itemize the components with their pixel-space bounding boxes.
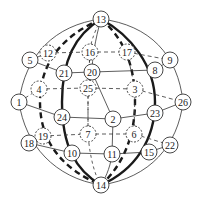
node-26: 26 <box>175 94 191 110</box>
node-label: 7 <box>86 129 91 140</box>
node-19: 19 <box>35 128 51 144</box>
node-21: 21 <box>56 65 72 81</box>
node-14: 14 <box>93 177 109 193</box>
node-label: 25 <box>83 83 93 94</box>
sphere-graph-svg: 1314512161798212042531262422319761810111… <box>0 0 200 204</box>
node-22: 22 <box>162 137 178 153</box>
node-3: 3 <box>127 81 143 97</box>
meridian-lines <box>19 19 183 185</box>
sphere-diagram: 1314512161798212042531262422319761810111… <box>0 0 200 204</box>
node-label: 10 <box>67 148 77 159</box>
node-label: 21 <box>59 68 69 79</box>
node-13: 13 <box>93 11 109 27</box>
node-11: 11 <box>104 146 120 162</box>
node-label: 18 <box>24 138 34 149</box>
node-label: 19 <box>38 131 48 142</box>
node-9: 9 <box>162 52 178 68</box>
edge-20-8 <box>92 70 155 72</box>
node-label: 24 <box>57 112 67 123</box>
node-18: 18 <box>21 135 37 151</box>
node-label: 8 <box>153 65 158 76</box>
node-20: 20 <box>84 64 100 80</box>
node-12: 12 <box>40 45 56 61</box>
node-label: 23 <box>150 108 160 119</box>
node-label: 16 <box>85 47 95 58</box>
node-17: 17 <box>119 44 135 60</box>
node-1: 1 <box>11 94 27 110</box>
node-4: 4 <box>31 81 47 97</box>
node-6: 6 <box>126 126 142 142</box>
node-label: 4 <box>37 84 42 95</box>
node-label: 20 <box>87 67 97 78</box>
node-25: 25 <box>80 80 96 96</box>
node-label: 15 <box>144 147 154 158</box>
node-8: 8 <box>147 62 163 78</box>
node-2: 2 <box>105 111 121 127</box>
node-label: 17 <box>122 47 132 58</box>
node-24: 24 <box>54 109 70 125</box>
node-label: 9 <box>168 55 173 66</box>
node-label: 3 <box>133 84 138 95</box>
node-10: 10 <box>64 145 80 161</box>
node-23: 23 <box>147 105 163 121</box>
node-5: 5 <box>22 52 38 68</box>
node-label: 13 <box>96 14 106 25</box>
node-label: 14 <box>96 180 106 191</box>
node-label: 1 <box>17 97 22 108</box>
node-label: 22 <box>165 140 175 151</box>
node-label: 12 <box>43 48 53 59</box>
node-16: 16 <box>82 44 98 60</box>
node-label: 5 <box>28 55 33 66</box>
node-label: 26 <box>178 97 188 108</box>
node-label: 2 <box>111 114 116 125</box>
meridian-center-dashed <box>88 19 101 185</box>
meridian-right-heavy-dash <box>101 19 135 185</box>
node-label: 6 <box>132 129 137 140</box>
node-15: 15 <box>141 144 157 160</box>
node-7: 7 <box>80 126 96 142</box>
graph-nodes: 1314512161798212042531262422319761810111… <box>11 11 191 193</box>
node-label: 11 <box>107 149 117 160</box>
